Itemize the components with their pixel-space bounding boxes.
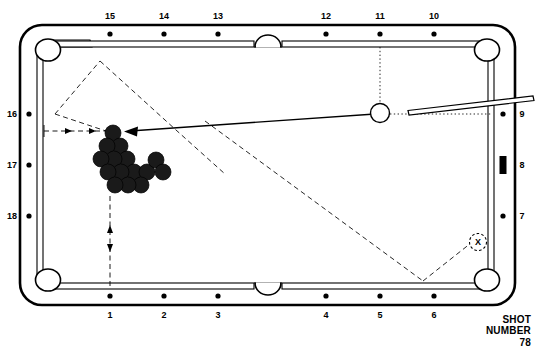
diamond-bottom-1 bbox=[107, 293, 112, 298]
diamond-top-14 bbox=[161, 31, 166, 36]
diamond-bottom-6 bbox=[431, 293, 436, 298]
diamond-label-right-8: 8 bbox=[519, 161, 524, 170]
diamond-bottom-2 bbox=[161, 293, 166, 298]
pocket-top-left bbox=[36, 39, 61, 61]
cushion-head-left bbox=[49, 41, 254, 47]
diamond-label-bottom-6: 6 bbox=[431, 311, 436, 320]
diamond-label-left-16: 16 bbox=[7, 110, 17, 119]
diamond-left-16 bbox=[26, 111, 31, 116]
diamond-left-18 bbox=[26, 213, 31, 218]
cushion-head-right bbox=[282, 41, 482, 47]
pocket-top-right bbox=[475, 39, 500, 61]
cushion-left bbox=[37, 55, 43, 275]
diamond-label-top-14: 14 bbox=[159, 12, 169, 21]
diamond-bottom-3 bbox=[215, 293, 220, 298]
diamond-label-top-12: 12 bbox=[321, 12, 331, 21]
pocket-bottom-right bbox=[475, 269, 500, 291]
diamond-label-top-15: 15 bbox=[105, 12, 115, 21]
diamond-label-right-7: 7 bbox=[519, 212, 524, 221]
table-svg bbox=[0, 0, 535, 349]
cushion-foot-right bbox=[282, 283, 482, 289]
diamond-label-bottom-5: 5 bbox=[377, 311, 382, 320]
diamond-left-17 bbox=[26, 162, 31, 167]
diamond-top-10 bbox=[431, 31, 436, 36]
diamond-top-11 bbox=[377, 31, 382, 36]
diamond-bottom-4 bbox=[323, 293, 328, 298]
diamond-label-bottom-1: 1 bbox=[107, 311, 112, 320]
diamond-top-15 bbox=[107, 31, 112, 36]
diamond-label-bottom-3: 3 bbox=[215, 311, 220, 320]
shot-caption-line-3: 78 bbox=[486, 337, 531, 349]
diamond-label-right-9: 9 bbox=[519, 110, 524, 119]
diamond-label-bottom-2: 2 bbox=[161, 311, 166, 320]
target-marker-label: X bbox=[475, 238, 481, 247]
diamond-label-top-11: 11 bbox=[375, 12, 385, 21]
diamond-label-bottom-4: 4 bbox=[323, 311, 328, 320]
pocket-bottom-left bbox=[36, 269, 61, 291]
aim-point-marker bbox=[500, 156, 507, 174]
shot-caption-line-2: NUMBER bbox=[486, 325, 531, 337]
rack-ball bbox=[107, 177, 123, 193]
diamond-top-12 bbox=[323, 31, 328, 36]
cue-ball bbox=[371, 104, 390, 123]
diamond-right-9 bbox=[500, 111, 505, 116]
diamond-bottom-5 bbox=[377, 293, 382, 298]
shot-caption-line-1: SHOT bbox=[486, 314, 531, 326]
cushion-foot-left bbox=[49, 283, 254, 289]
diamond-label-top-10: 10 bbox=[429, 12, 439, 21]
shot-number-caption: SHOT NUMBER 78 bbox=[486, 314, 531, 349]
diamond-label-left-18: 18 bbox=[7, 212, 17, 221]
rack-ball bbox=[155, 164, 171, 180]
diamond-label-top-13: 13 bbox=[213, 12, 223, 21]
pool-table-diagram: 15 14 13 12 11 10 1 2 3 4 5 6 16 17 18 9… bbox=[0, 0, 535, 349]
diamond-right-7 bbox=[500, 213, 505, 218]
diamond-label-left-17: 17 bbox=[7, 161, 17, 170]
diamond-top-13 bbox=[215, 31, 220, 36]
cushion-right bbox=[488, 55, 494, 275]
